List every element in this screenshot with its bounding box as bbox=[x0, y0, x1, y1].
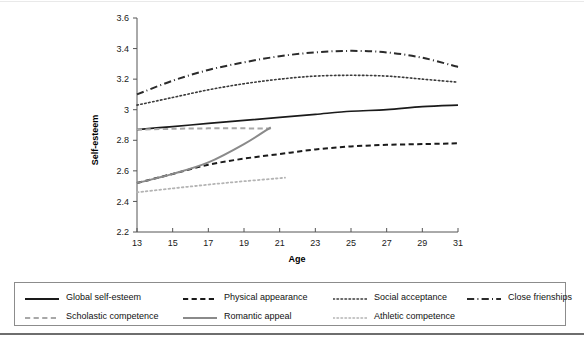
legend-swatch-icon bbox=[25, 291, 59, 303]
chart-plot-area: 2.22.42.62.833.23.43.6 13151719212325272… bbox=[0, 0, 584, 270]
x-axis-tick-label: 25 bbox=[346, 238, 356, 248]
y-axis-tick-label: 2.8 bbox=[116, 135, 129, 145]
legend-label: Scholastic competence bbox=[66, 311, 159, 321]
x-axis-tick-label: 23 bbox=[310, 238, 320, 248]
x-axis-tick-label: 29 bbox=[417, 238, 427, 248]
legend-label: Social acceptance bbox=[374, 292, 447, 302]
series-line bbox=[137, 143, 458, 183]
legend-item: Romantic appeal bbox=[183, 309, 292, 323]
series-line bbox=[137, 105, 458, 129]
legend-swatch-icon bbox=[467, 291, 501, 303]
legend-item: Global self-esteem bbox=[25, 290, 141, 304]
legend-swatch-icon bbox=[25, 310, 59, 322]
chart-legend: Global self-esteemPhysical appearanceSoc… bbox=[14, 282, 566, 326]
y-axis-tick-label: 2.2 bbox=[116, 227, 129, 237]
x-axis: 13151719212325272931 bbox=[132, 228, 463, 248]
y-axis-tick-label: 3 bbox=[124, 105, 129, 115]
chart-svg: 2.22.42.62.833.23.43.6 13151719212325272… bbox=[0, 0, 584, 270]
series-line bbox=[137, 128, 271, 129]
y-axis-title: Self-esteem bbox=[90, 115, 100, 166]
series-line bbox=[137, 127, 271, 183]
legend-label: Physical appearance bbox=[224, 292, 308, 302]
legend-swatch-icon bbox=[183, 291, 217, 303]
y-axis-tick-label: 2.4 bbox=[116, 197, 129, 207]
legend-swatch-icon bbox=[333, 310, 367, 322]
legend-label: Athletic competence bbox=[374, 311, 455, 321]
x-axis-tick-label: 21 bbox=[275, 238, 285, 248]
legend-swatch-icon bbox=[183, 310, 217, 322]
x-axis-tick-label: 19 bbox=[239, 238, 249, 248]
x-axis-tick-label: 15 bbox=[168, 238, 178, 248]
legend-item: Physical appearance bbox=[183, 290, 308, 304]
legend-swatch-icon bbox=[333, 291, 367, 303]
legend-label: Close frienships bbox=[508, 292, 572, 302]
legend-label: Romantic appeal bbox=[224, 311, 292, 321]
legend-item: Social acceptance bbox=[333, 290, 447, 304]
chart-series-group bbox=[137, 51, 458, 192]
legend-item: Athletic competence bbox=[333, 309, 455, 323]
legend-label: Global self-esteem bbox=[66, 292, 141, 302]
series-line bbox=[137, 51, 458, 95]
y-axis-tick-label: 2.6 bbox=[116, 166, 129, 176]
series-line bbox=[137, 178, 285, 193]
series-line bbox=[137, 75, 458, 105]
y-axis-tick-label: 3.2 bbox=[116, 74, 129, 84]
y-axis-tick-label: 3.4 bbox=[116, 44, 129, 54]
legend-item: Scholastic competence bbox=[25, 309, 159, 323]
x-axis-tick-label: 17 bbox=[203, 238, 213, 248]
figure-bottom-rule bbox=[0, 333, 584, 335]
x-axis-title: Age bbox=[288, 254, 305, 264]
x-axis-tick-label: 13 bbox=[132, 238, 142, 248]
figure-container: 2.22.42.62.833.23.43.6 13151719212325272… bbox=[0, 0, 584, 341]
x-axis-tick-label: 27 bbox=[382, 238, 392, 248]
x-axis-tick-label: 31 bbox=[453, 238, 463, 248]
legend-item: Close frienships bbox=[467, 290, 572, 304]
y-axis: 2.22.42.62.833.23.43.6 bbox=[116, 13, 137, 237]
y-axis-tick-label: 3.6 bbox=[116, 13, 129, 23]
legend-entries: Global self-esteemPhysical appearanceSoc… bbox=[15, 283, 565, 325]
